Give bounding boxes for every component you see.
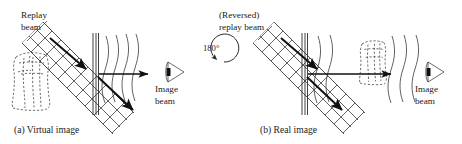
- transmitted-beam-arrow-b: [307, 77, 342, 110]
- real-image-outline: [360, 41, 387, 85]
- panel-b-caption: (b) Real image: [260, 124, 317, 136]
- figure-canvas: Replay beam Image beam (a) Virtual image…: [0, 0, 462, 144]
- panel-a: Replay beam Image beam (a) Virtual image: [12, 10, 184, 136]
- replay-beam-arrow-b: [281, 38, 317, 69]
- eye-icon: [166, 62, 184, 82]
- panel-a-replay-label-line2: beam: [21, 22, 41, 32]
- replay-beam-arrow-a: [50, 38, 86, 69]
- panel-b-replay-label-line1: (Reversed): [219, 10, 259, 20]
- panel-b: (Reversed) replay beam Image beam (b) Re…: [219, 10, 444, 136]
- hologram-plate-b: [302, 33, 308, 115]
- transmitted-beam-arrow-a: [98, 77, 133, 110]
- virtual-image-outline: [12, 53, 50, 111]
- panel-b-replay-label-line2: replay beam: [219, 22, 264, 32]
- eye-icon: [426, 62, 444, 82]
- panel-a-replay-label-line1: Replay: [21, 10, 47, 20]
- panel-a-image-label-line1: Image: [155, 84, 178, 94]
- panel-b-image-label-line1: Image: [415, 84, 438, 94]
- hologram-plate-a: [93, 33, 99, 115]
- panel-b-image-label-line2: beam: [415, 96, 435, 106]
- panel-a-image-label-line2: beam: [155, 96, 175, 106]
- wavefronts-a: [102, 34, 139, 103]
- holography-figure: Replay beam Image beam (a) Virtual image…: [0, 0, 462, 144]
- panel-a-caption: (a) Virtual image: [14, 124, 79, 136]
- rotation-symbol: 180°: [203, 34, 239, 62]
